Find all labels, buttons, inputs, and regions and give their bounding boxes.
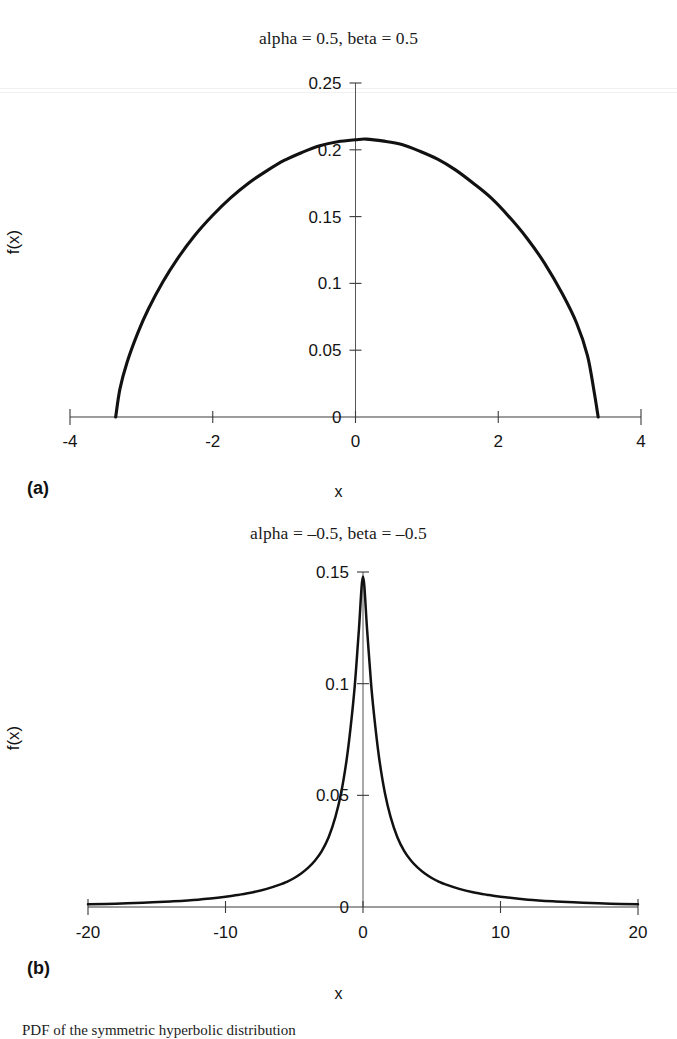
y-axis-label-a: f(x)	[4, 230, 24, 255]
axes-group-a	[70, 83, 641, 417]
chart-plot-b: -20-100102000.050.10.15	[0, 510, 677, 960]
x-tick-label: 20	[629, 923, 648, 942]
tick-label-group-b: -20-100102000.050.10.15	[76, 563, 648, 942]
chart-plot-a: -4-202400.050.10.150.20.25	[0, 0, 677, 470]
panel-tag-a: (a)	[27, 478, 49, 499]
tick-label-group-a: -4-202400.050.10.150.20.25	[62, 74, 645, 451]
x-tick-label: -10	[213, 923, 238, 942]
axes-group-b	[88, 572, 638, 907]
x-axis-label-a: x	[0, 483, 677, 501]
x-tick-label: 0	[358, 923, 367, 942]
chart-panel-a: alpha = 0.5, beta = 0.5 -4-202400.050.10…	[0, 0, 677, 510]
figure-caption: PDF of the symmetric hyperbolic distribu…	[22, 1022, 677, 1039]
chart-panel-b: alpha = –0.5, beta = –0.5 -20-100102000.…	[0, 510, 677, 995]
y-axis-label-b: f(x)	[4, 726, 24, 751]
curve-group-a	[116, 139, 599, 417]
data-curve	[116, 139, 599, 417]
y-tick-label: 0.2	[318, 141, 342, 160]
y-tick-label: 0.25	[308, 74, 341, 93]
y-tick-label: 0.15	[316, 563, 349, 582]
x-tick-label: 2	[494, 432, 503, 451]
x-tick-label: 0	[351, 432, 360, 451]
y-tick-label: 0	[340, 898, 349, 917]
y-tick-label: 0.05	[316, 786, 349, 805]
x-axis-label-b: x	[0, 985, 677, 1003]
y-tick-label: 0	[332, 408, 341, 427]
y-tick-label: 0.1	[318, 274, 342, 293]
x-tick-label: -20	[76, 923, 101, 942]
x-tick-label: -4	[62, 432, 77, 451]
y-tick-label: 0.05	[308, 341, 341, 360]
y-tick-label: 0.1	[325, 675, 349, 694]
panel-tag-b: (b)	[27, 958, 50, 979]
x-tick-label: 10	[491, 923, 510, 942]
y-tick-label: 0.15	[308, 208, 341, 227]
x-tick-label: 4	[636, 432, 645, 451]
x-tick-label: -2	[205, 432, 220, 451]
